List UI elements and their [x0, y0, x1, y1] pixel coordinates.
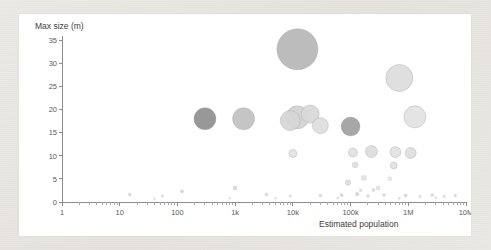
bubble-point[interactable] [419, 195, 422, 198]
bubble-point[interactable] [367, 195, 370, 198]
bubble-point[interactable] [161, 195, 163, 197]
bubble-point[interactable] [289, 149, 297, 157]
bubble-point[interactable] [154, 198, 156, 200]
bubble-point[interactable] [388, 177, 392, 181]
screenshot-root: 051015202530351101001k10k100k1M10M Max s… [0, 0, 491, 250]
bubble-point[interactable] [274, 197, 276, 199]
x-tick-label: 1M [403, 208, 413, 217]
bubble-point[interactable] [233, 186, 237, 190]
x-tick-label: 1k [231, 208, 239, 217]
bubble-point[interactable] [128, 193, 131, 196]
bubble-point[interactable] [194, 108, 216, 130]
bubble-point[interactable] [372, 188, 375, 191]
bubble-point[interactable] [341, 117, 360, 136]
bubble-point[interactable] [390, 162, 397, 169]
x-tick-label: 100 [171, 208, 184, 217]
bubble-point[interactable] [431, 194, 434, 197]
bubble-point[interactable] [345, 180, 351, 186]
bubble-point[interactable] [390, 147, 401, 158]
bubble-chart[interactable]: 051015202530351101001k10k100k1M10M Max s… [19, 14, 471, 236]
x-tick-label: 10k [287, 208, 299, 217]
bubble-point[interactable] [454, 194, 457, 197]
bubble-point[interactable] [348, 148, 357, 157]
chart-card: 051015202530351101001k10k100k1M10M Max s… [19, 14, 471, 236]
y-tick-label: 20 [49, 105, 57, 114]
y-tick-label: 10 [49, 152, 57, 161]
bubble-point[interactable] [398, 197, 400, 199]
bubble-point[interactable] [361, 175, 366, 180]
bubble-point[interactable] [319, 194, 322, 197]
y-tick-label: 5 [53, 175, 57, 184]
bubble-point[interactable] [435, 197, 437, 199]
bubble-point[interactable] [359, 189, 362, 192]
y-tick-label: 35 [49, 36, 57, 45]
bubble-point[interactable] [265, 193, 268, 196]
bubble-point[interactable] [376, 186, 380, 190]
bubble-point[interactable] [355, 192, 359, 196]
y-tick-label: 0 [53, 198, 57, 207]
y-tick-label: 30 [49, 59, 57, 68]
bubble-point[interactable] [337, 197, 339, 199]
bubble-point[interactable] [405, 147, 416, 158]
bubble-point[interactable] [180, 190, 183, 193]
x-tick-label: 100k [342, 208, 359, 217]
bubble-point[interactable] [365, 146, 377, 158]
bubble-point[interactable] [312, 118, 328, 134]
bubble-point[interactable] [289, 195, 291, 197]
bubble-point[interactable] [277, 29, 318, 70]
bubble-point[interactable] [383, 194, 386, 197]
bubble-point[interactable] [386, 64, 413, 91]
y-axis-title: Max size (m) [35, 21, 84, 31]
bubble-point[interactable] [404, 194, 407, 197]
bubble-point[interactable] [229, 197, 231, 199]
bubble-point[interactable] [280, 111, 300, 131]
bubble-point[interactable] [233, 108, 255, 130]
x-tick-label: 1 [60, 208, 64, 217]
bubble-point[interactable] [443, 195, 446, 198]
x-tick-label: 10M [459, 208, 471, 217]
y-tick-label: 15 [49, 128, 57, 137]
bubble-point[interactable] [404, 106, 426, 128]
x-axis-title: Estimated population [319, 219, 398, 229]
y-tick-label: 25 [49, 82, 57, 91]
bubble-point[interactable] [352, 162, 358, 168]
chart-svg: 051015202530351101001k10k100k1M10M [19, 14, 471, 236]
bubble-point[interactable] [340, 193, 343, 196]
x-tick-label: 10 [116, 208, 124, 217]
